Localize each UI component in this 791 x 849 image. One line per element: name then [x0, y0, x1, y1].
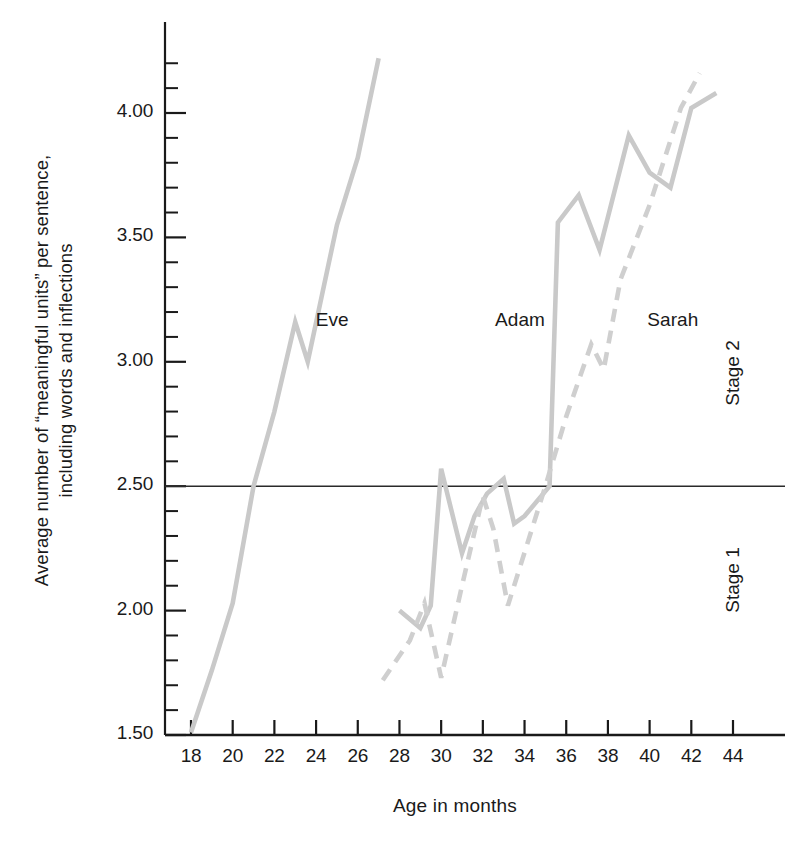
y-tick-label: 3.50 [73, 224, 153, 246]
series-line-adam [399, 93, 716, 628]
stage-1-label: Stage 1 [722, 547, 744, 613]
series-label-sarah: Sarah [647, 309, 698, 331]
axes [165, 22, 785, 735]
y-tick-label: 1.50 [73, 722, 153, 744]
x-tick-label: 18 [169, 745, 213, 767]
series-label-eve: Eve [316, 309, 349, 331]
x-tick-label: 20 [211, 745, 255, 767]
x-tick-label: 34 [503, 745, 547, 767]
data-series-group [191, 58, 716, 732]
series-line-eve [191, 58, 379, 732]
x-tick-label: 36 [544, 745, 588, 767]
x-axis-title: Age in months [165, 795, 745, 817]
x-tick-label: 38 [586, 745, 630, 767]
x-tick-label: 24 [294, 745, 338, 767]
x-tick-label: 30 [419, 745, 463, 767]
y-tick-label: 3.00 [73, 349, 153, 371]
x-tick-label: 42 [669, 745, 713, 767]
chart-figure: Average number of “meaningful units” per… [0, 0, 791, 849]
x-tick-label: 32 [461, 745, 505, 767]
y-tick-label: 2.50 [73, 473, 153, 495]
x-tick-label: 28 [377, 745, 421, 767]
x-tick-label: 22 [252, 745, 296, 767]
x-tick-label: 40 [628, 745, 672, 767]
x-tick-label: 44 [711, 745, 755, 767]
x-tick-label: 26 [336, 745, 380, 767]
y-tick-label: 4.00 [73, 100, 153, 122]
series-label-adam: Adam [495, 309, 545, 331]
y-tick-label: 2.00 [73, 598, 153, 620]
stage-2-label: Stage 2 [722, 340, 744, 406]
